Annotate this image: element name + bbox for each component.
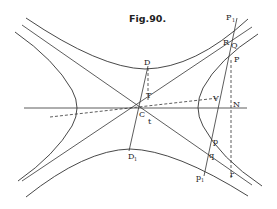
figure-title: Fig.90. <box>129 13 166 24</box>
label-p: P <box>234 55 240 64</box>
label-v: V <box>212 94 219 103</box>
label-r-upper: R <box>223 38 230 47</box>
label-q-lower: q <box>209 151 214 160</box>
diameter-cv-dashed <box>50 98 218 117</box>
label-t: T <box>146 91 152 100</box>
label-r-lower: r <box>230 170 234 179</box>
label-p-lower: p <box>213 137 218 146</box>
label-d: D <box>144 58 150 67</box>
label-q-upper: Q <box>231 41 238 50</box>
hyperbola-diagram: Fig.90. P 1 R Q P D T V N C t D 1 p q p … <box>0 0 277 209</box>
hyperbola-left-branch <box>15 32 77 181</box>
label-p1-top-subscript: 1 <box>232 17 235 23</box>
label-n: N <box>233 100 240 109</box>
label-c: C <box>139 110 145 119</box>
conjugate-diameter-dd1 <box>129 66 148 151</box>
conjugate-upper-branch <box>26 18 248 69</box>
label-d1-subscript: 1 <box>134 156 137 162</box>
label-t-lower: t <box>148 117 152 126</box>
label-p1-lower-subscript: 1 <box>201 177 204 183</box>
